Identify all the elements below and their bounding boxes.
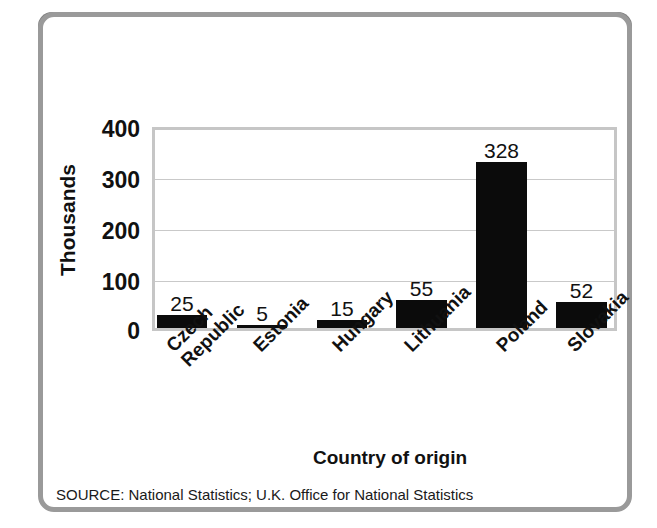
gridline-200 (155, 230, 614, 231)
gridline-100 (155, 281, 614, 282)
y-tick-0: 0 (66, 320, 140, 343)
bar-poland[interactable] (476, 162, 527, 328)
bar-value-slovakia: 52 (556, 280, 607, 301)
bar-value-poland: 328 (476, 140, 527, 161)
bar-value-lithuania: 55 (396, 278, 447, 299)
source-note: SOURCE: National Statistics; U.K. Office… (56, 486, 473, 503)
gridline-300 (155, 179, 614, 180)
y-tick-300: 300 (66, 169, 140, 192)
y-tick-400: 400 (66, 118, 140, 141)
x-axis-title: Country of origin (270, 447, 510, 469)
y-tick-200: 200 (66, 220, 140, 243)
y-axis-tick-labels: 400 300 200 100 0 (66, 0, 140, 528)
y-tick-100: 100 (66, 271, 140, 294)
chart-plot-area: Thousands 400 300 200 100 0 25 5 15 55 3… (0, 0, 657, 528)
